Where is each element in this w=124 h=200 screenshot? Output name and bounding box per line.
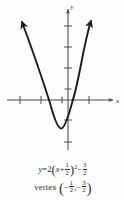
- vertex-close-paren: ): [87, 180, 92, 196]
- equation-constant-fraction-denominator: 2: [83, 170, 87, 177]
- figure-caption: y=2(x+12)2−32 vertex (−12,−32): [0, 158, 124, 200]
- vertex-label: vertex: [34, 182, 56, 192]
- vertex-x-sign: −: [64, 182, 69, 192]
- equation-inner-fraction: 12: [65, 162, 69, 176]
- y-axis-label: y: [70, 3, 75, 11]
- parabola-figure: y x y=2(x+12)2−32 vertex (−12,−32): [0, 0, 124, 200]
- x-axis-label: x: [115, 97, 120, 105]
- equation-constant-fraction: 32: [83, 162, 87, 176]
- equation-inner-sign: +: [60, 164, 65, 174]
- equation-inner-fraction-denominator: 2: [65, 170, 69, 177]
- vertex-y-sign: −: [76, 182, 81, 192]
- parabola-curve: [22, 21, 91, 129]
- vertex-line: vertex (−12,−32): [0, 180, 124, 194]
- equation-line: y=2(x+12)2−32: [0, 162, 124, 176]
- equation-minus: −: [77, 164, 82, 174]
- vertex-y-fraction: 32: [82, 180, 86, 194]
- graph-canvas: y x: [0, 0, 124, 158]
- vertex-y-fraction-denominator: 2: [82, 187, 86, 194]
